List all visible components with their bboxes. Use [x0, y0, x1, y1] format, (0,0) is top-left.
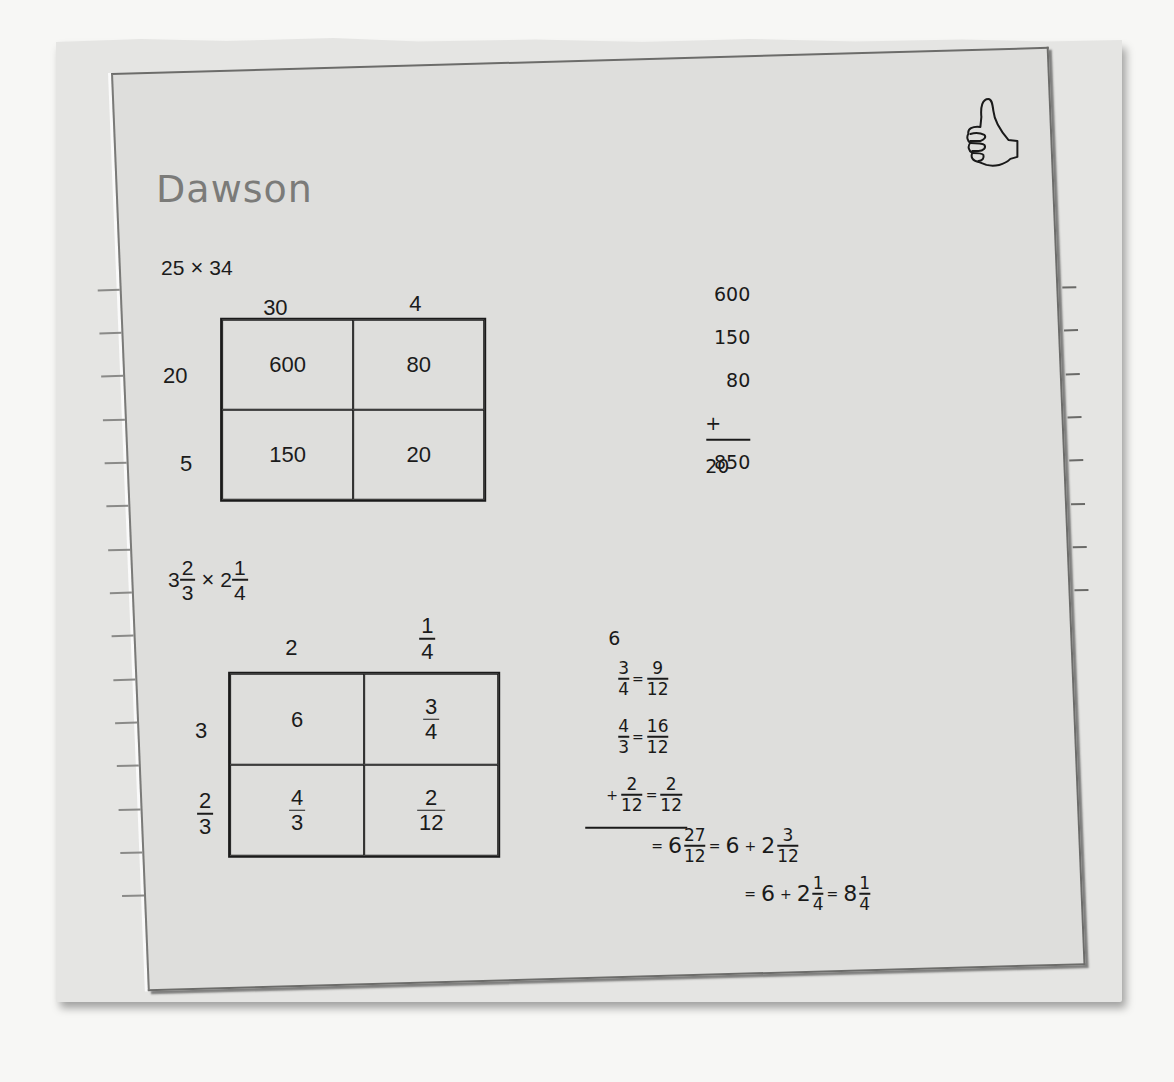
- whole-part: 6: [608, 627, 620, 649]
- grid-cell: 150: [222, 410, 353, 500]
- grid-cell: 20: [353, 410, 484, 500]
- sum-total: 850: [714, 441, 750, 484]
- addend: 150: [714, 316, 750, 359]
- area-model-grid-1: 600 80 150 20: [220, 318, 486, 502]
- mixed-whole: 3: [168, 568, 180, 592]
- problem1-expression: 25 × 34: [161, 255, 233, 281]
- grid-cell: 600: [222, 320, 353, 410]
- student-name: Dawson: [156, 167, 313, 211]
- problem2-expression: 3 2 3 × 2 1 4: [168, 557, 248, 602]
- times-symbol: ×: [190, 255, 203, 281]
- grid-cell: 34: [364, 674, 498, 765]
- col-header: 14: [419, 615, 435, 662]
- student-work-card: Dawson 25 × 34 30 4 20 5 600 80 150 20 6…: [111, 47, 1086, 992]
- fraction: 1 4: [232, 557, 248, 602]
- mixed-whole: 2: [220, 568, 232, 592]
- grid-cell: 43: [230, 765, 364, 856]
- result-line-1: = 6 2712 = 6 + 2 312: [648, 827, 799, 864]
- thumbs-up-icon: [958, 93, 1022, 173]
- row-header: 3: [195, 718, 207, 744]
- times-symbol: ×: [201, 567, 214, 593]
- conversion-row: + 212 = 212: [603, 776, 682, 813]
- result-line-2: = 6 + 2 14 = 8 14: [741, 875, 870, 912]
- col-header: 2: [285, 635, 297, 661]
- conversion-row: 43 = 1612: [618, 718, 668, 755]
- grid-cell: 6: [230, 674, 364, 765]
- fraction: 2 3: [180, 557, 196, 602]
- grid-cell: 212: [364, 765, 498, 856]
- area-model-grid-2: 6 34 43 212: [228, 672, 500, 858]
- conversion-row: 34 = 912: [618, 660, 668, 697]
- addend: 80: [726, 359, 750, 402]
- row-header: 5: [180, 451, 192, 477]
- factor-a: 25: [161, 256, 184, 280]
- col-header: 4: [409, 291, 421, 317]
- factor-b: 34: [209, 256, 232, 280]
- addend: 600: [714, 273, 750, 316]
- row-header: 20: [163, 363, 187, 389]
- row-header: 23: [197, 790, 213, 837]
- partial-products-sum: 600 150 80 + 20 850: [705, 273, 750, 484]
- grid-cell: 80: [353, 320, 484, 410]
